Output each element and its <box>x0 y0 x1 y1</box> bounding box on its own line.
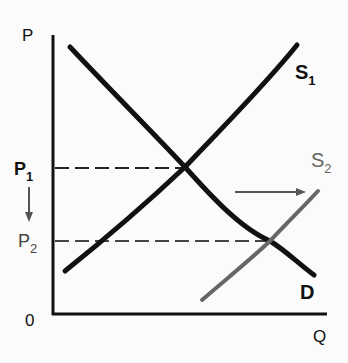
origin-label: 0 <box>25 312 34 329</box>
x-axis-label: Q <box>313 328 326 345</box>
shift-right-arrow-icon <box>235 188 306 196</box>
s1-subscript: 1 <box>308 73 315 88</box>
s1-label: S1 <box>295 62 316 82</box>
p2-subscript: 2 <box>30 241 37 256</box>
p1-subscript: 1 <box>26 169 33 184</box>
s2-subscript: 2 <box>324 161 331 176</box>
p2-main: P <box>18 231 30 251</box>
p1-label: P1 <box>14 160 33 178</box>
price-down-arrow-icon <box>25 187 33 222</box>
s2-main: S <box>311 149 324 171</box>
p2-label: P2 <box>18 232 37 250</box>
p1-main: P <box>14 159 26 179</box>
y-axis-label: P <box>22 27 33 44</box>
supply-demand-diagram <box>0 0 348 363</box>
s2-label: S2 <box>311 150 332 170</box>
s1-main: S <box>295 61 308 83</box>
demand-label: D <box>300 282 314 302</box>
